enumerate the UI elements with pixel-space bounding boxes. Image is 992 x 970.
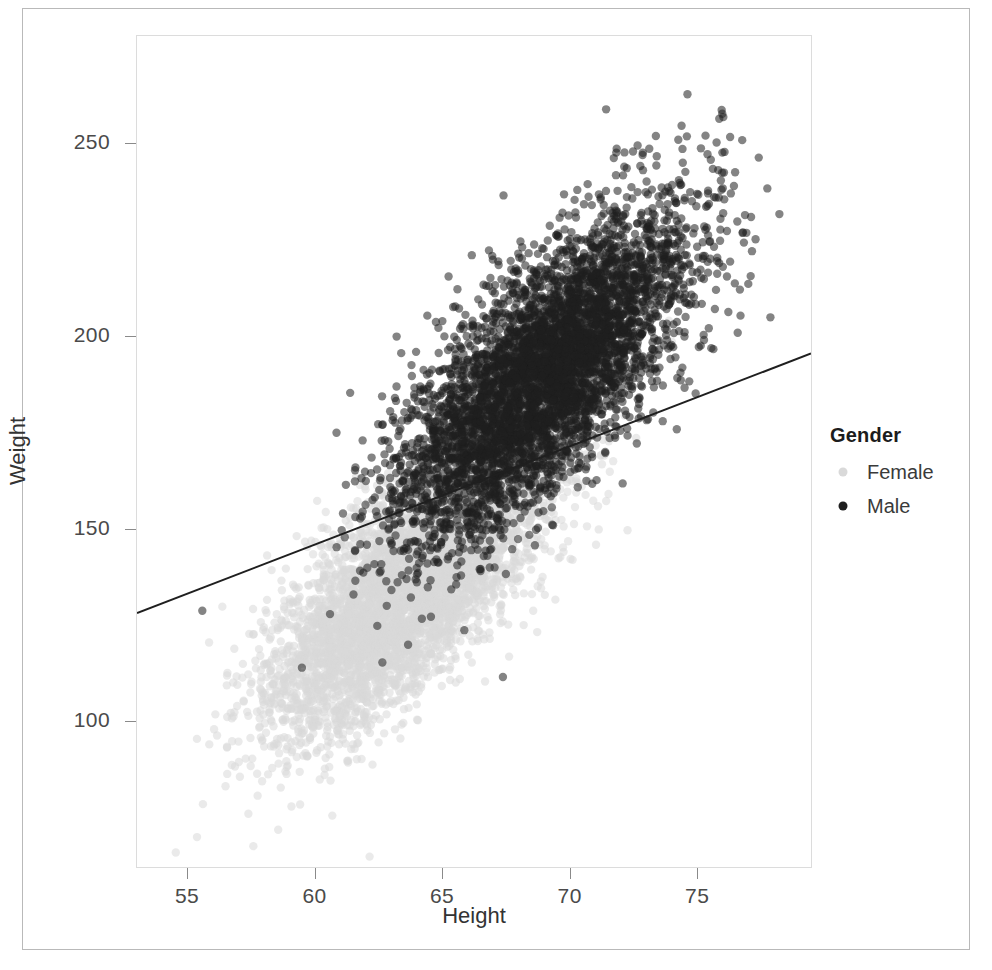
legend-key-swatch bbox=[828, 491, 858, 521]
regression-line bbox=[137, 353, 811, 613]
x-axis-title: Height bbox=[136, 903, 812, 929]
legend-label: Male bbox=[867, 495, 910, 518]
y-tick-mark bbox=[125, 529, 136, 530]
y-tick-label: 200 bbox=[52, 323, 110, 347]
plot-panel bbox=[136, 35, 812, 868]
y-tick-label: 250 bbox=[52, 130, 110, 154]
legend-entries: FemaleMale bbox=[828, 455, 978, 523]
y-axis-title: Weight bbox=[5, 417, 31, 485]
y-tick-label: 150 bbox=[52, 516, 110, 540]
legend-row[interactable]: Female bbox=[828, 455, 978, 489]
x-tick-mark bbox=[570, 868, 571, 879]
y-tick-mark bbox=[125, 721, 136, 722]
legend-dot-icon bbox=[839, 502, 848, 511]
legend-row[interactable]: Male bbox=[828, 489, 978, 523]
legend-label: Female bbox=[867, 461, 934, 484]
y-tick-label: 100 bbox=[52, 708, 110, 732]
legend-dot-icon bbox=[839, 468, 848, 477]
x-tick-mark bbox=[187, 868, 188, 879]
figure-caption bbox=[26, 956, 966, 970]
scatter-plot-figure: 100150200250 5560657075 Height Weight Ge… bbox=[0, 0, 992, 952]
x-tick-mark bbox=[315, 868, 316, 879]
x-tick-mark bbox=[697, 868, 698, 879]
legend-title: Gender bbox=[830, 424, 978, 447]
x-tick-mark bbox=[442, 868, 443, 879]
regression-line-layer bbox=[137, 36, 811, 867]
legend: Gender FemaleMale bbox=[828, 424, 978, 523]
legend-key-swatch bbox=[828, 457, 858, 487]
y-tick-mark bbox=[125, 143, 136, 144]
y-tick-mark bbox=[125, 336, 136, 337]
